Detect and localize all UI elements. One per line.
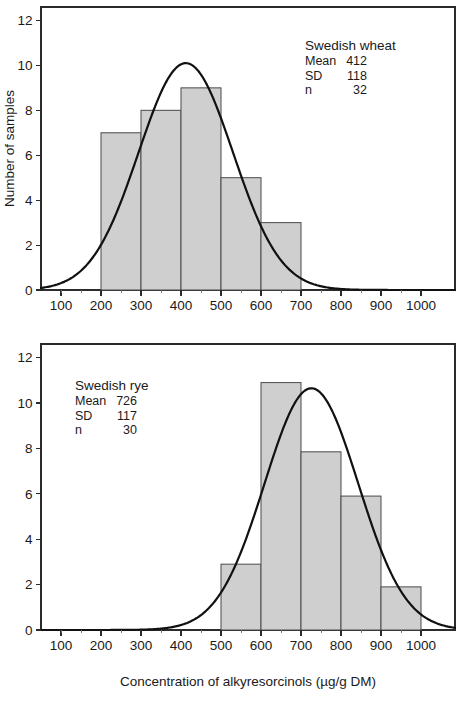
annotation-value: 32 [353,83,367,97]
annotation-title: Swedish wheat [305,38,396,53]
histogram-figure: 1002003004005006007008009001000024681012… [0,0,465,701]
annotation-block: Swedish wheatMean412SD118n32 [305,38,396,97]
x-tick-label: 500 [210,638,233,653]
annotation-label: n [75,423,82,437]
y-tick-label: 2 [25,238,33,253]
histogram-bar [301,452,341,630]
histogram-bar [181,88,221,290]
annotation-value: 412 [346,54,367,68]
y-tick-label: 8 [25,103,33,118]
annotation-label: Mean [305,54,336,68]
x-tick-label: 300 [130,298,153,313]
x-tick-label: 600 [250,298,273,313]
x-tick-label: 400 [170,298,193,313]
annotation-label: SD [305,69,322,83]
annotation-label: n [305,83,312,97]
annotation-value: 117 [117,409,137,423]
histogram-bar [341,496,381,630]
y-tick-label: 10 [17,396,32,411]
y-tick-label: 0 [25,283,33,298]
y-tick-label: 6 [25,148,33,163]
y-tick-label: 10 [17,58,32,73]
y-tick-label: 4 [25,532,33,547]
chart-panel-swedish-wheat: 1002003004005006007008009001000024681012… [0,0,465,335]
y-tick-label: 6 [25,487,33,502]
y-tick-label: 4 [25,193,33,208]
y-tick-label: 12 [17,350,32,365]
x-tick-label: 800 [330,298,353,313]
x-axis: 1002003004005006007008009001000 [50,630,436,653]
x-tick-label: 400 [170,638,193,653]
annotation-value: 118 [347,69,367,83]
annotation-value: 30 [123,423,137,437]
y-axis: 024681012 [17,13,41,298]
y-tick-label: 12 [17,13,32,28]
bar-series [101,88,301,290]
annotation-label: Mean [75,394,106,408]
x-tick-label: 500 [210,298,233,313]
chart-panel-swedish-rye: 1002003004005006007008009001000024681012… [0,335,465,701]
x-tick-label: 200 [90,638,113,653]
x-tick-label: 800 [330,638,353,653]
y-tick-label: 8 [25,441,33,456]
y-tick-label: 0 [25,623,33,638]
x-tick-label: 100 [50,298,73,313]
x-tick-label: 700 [290,298,313,313]
x-tick-label: 900 [370,638,393,653]
x-tick-label: 600 [250,638,273,653]
y-tick-label: 2 [25,577,33,592]
annotation-value: 726 [116,394,137,408]
histogram-bar [141,110,181,290]
histogram-bar [101,133,141,290]
x-axis: 1002003004005006007008009001000 [50,290,436,313]
x-tick-label: 700 [290,638,313,653]
annotation-title: Swedish rye [75,378,149,393]
histogram-bar [221,178,261,290]
annotation-label: SD [75,409,92,423]
histogram-bar [261,383,301,630]
histogram-bar [221,564,261,630]
x-tick-label: 300 [130,638,153,653]
x-tick-label: 200 [90,298,113,313]
histogram-bar [261,223,301,290]
bar-series [221,383,421,630]
x-tick-label: 100 [50,638,73,653]
x-tick-label: 1000 [406,638,436,653]
y-axis-title: Number of samples [2,90,17,207]
annotation-block: Swedish ryeMean726SD117n30 [75,378,149,437]
y-axis: 024681012 [17,350,41,637]
x-tick-label: 1000 [406,298,436,313]
x-tick-label: 900 [370,298,393,313]
x-axis-title: Concentration of alkyresorcinols (µg/g D… [120,674,376,689]
